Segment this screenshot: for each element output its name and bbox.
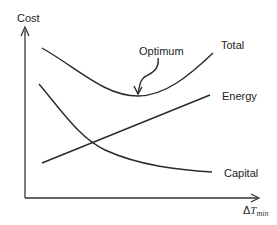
- total-curve: [42, 48, 213, 96]
- energy-label: Energy: [222, 90, 257, 102]
- x-axis-label: ΔTmin: [243, 204, 268, 218]
- min-subscript: min: [256, 209, 268, 218]
- cost-diagram: Cost Optimum Total Energy Capital ΔTmin: [0, 0, 277, 225]
- total-label: Total: [221, 39, 244, 51]
- optimum-label: Optimum: [139, 45, 184, 57]
- capital-label: Capital: [224, 167, 258, 179]
- y-axis-label: Cost: [17, 12, 40, 24]
- energy-line: [42, 95, 210, 163]
- capital-curve: [39, 84, 212, 172]
